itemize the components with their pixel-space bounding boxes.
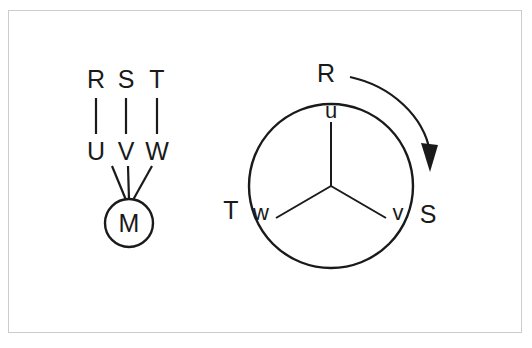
- motor-label-m: M: [119, 209, 140, 237]
- phasor-inner-label-v: v: [393, 200, 404, 225]
- left-lead-line-w: [133, 166, 152, 200]
- phasor-outer-label-t: T: [223, 196, 238, 224]
- phasor-rotation-diagram: u w v R T S: [223, 59, 438, 268]
- phasor-inner-label-w: w: [252, 200, 269, 225]
- left-lead-line-v: [128, 166, 129, 200]
- figure-root: R S T U V W M: [0, 0, 532, 348]
- left-terminal-label-s: S: [118, 65, 135, 93]
- phasor-outer-label-r: R: [317, 59, 335, 87]
- left-winding-label-w: W: [145, 137, 169, 165]
- rotation-arrow-head: [421, 143, 438, 172]
- phasor-inner-label-u: u: [325, 98, 337, 123]
- left-terminal-label-r: R: [87, 65, 105, 93]
- rotation-arrow-arc: [350, 77, 430, 152]
- left-terminal-label-t: T: [149, 65, 164, 93]
- diagram-canvas: R S T U V W M: [0, 0, 532, 348]
- left-winding-label-u: U: [87, 137, 105, 165]
- motor-terminal-box-diagram: R S T U V W M: [87, 65, 169, 247]
- phasor-spoke-v: [331, 186, 386, 218]
- phasor-outer-label-s: S: [420, 200, 437, 228]
- phasor-spoke-w: [276, 186, 331, 218]
- left-winding-label-v: V: [118, 137, 135, 165]
- left-lead-line-u: [112, 166, 126, 200]
